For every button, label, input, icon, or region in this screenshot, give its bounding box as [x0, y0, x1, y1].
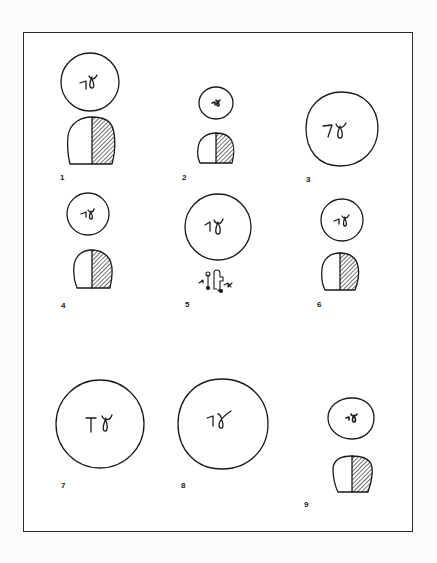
- panel-1-seal-face: [61, 53, 119, 111]
- panel-7-label: 7: [61, 481, 65, 490]
- panel-3-label: 3: [306, 175, 310, 184]
- panel-5-seal-face: [185, 194, 251, 260]
- panel-7-seal-face: [56, 380, 144, 468]
- panel-4-seal-profile: [74, 250, 112, 288]
- panel-8-seal-face: [178, 379, 268, 469]
- panel-1-seal-profile: [68, 117, 115, 164]
- panel-6-seal-profile: [322, 253, 359, 290]
- panel-3-seal-face: [306, 92, 378, 166]
- panel-1-label: 1: [60, 173, 64, 182]
- panel-6-seal-face: [321, 199, 363, 241]
- panel-2-label: 2: [182, 173, 186, 182]
- panel-6-label: 6: [317, 300, 321, 309]
- panel-9-seal-face: [328, 398, 374, 439]
- panel-9-seal-profile: [333, 456, 372, 492]
- figure-plate: [0, 0, 437, 563]
- panel-8-label: 8: [181, 481, 185, 490]
- panel-5-label: 5: [185, 300, 189, 309]
- panel-2-seal-face: [199, 87, 233, 119]
- panel-2-seal-profile: [198, 133, 234, 163]
- panel-4-seal-face: [67, 193, 109, 235]
- panel-9-label: 9: [304, 500, 308, 509]
- panel-4-label: 4: [61, 301, 65, 310]
- panel-5-figure-glyph: [199, 270, 232, 293]
